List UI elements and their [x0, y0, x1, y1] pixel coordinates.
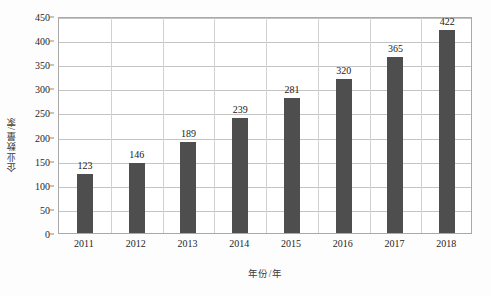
y-axis-tick-label: 100: [35, 180, 50, 191]
y-axis-tick-label: 450: [35, 12, 50, 23]
y-axis-tick-mark: [50, 161, 54, 162]
y-axis-tick-label: 150: [35, 156, 50, 167]
y-axis-tick-mark: [50, 137, 54, 138]
bar-value-label: 422: [440, 17, 455, 27]
x-axis-title: 年份/年: [58, 266, 472, 280]
bar-value-label: 189: [181, 129, 196, 139]
bar-group: 146: [111, 18, 163, 233]
y-axis-tick-mark: [50, 65, 54, 66]
bar-group: 365: [370, 18, 422, 233]
bar-value-label: 123: [77, 161, 92, 171]
bar-value-label: 281: [284, 85, 299, 95]
bar-group: 123: [59, 18, 111, 233]
y-axis-tick-label: 250: [35, 108, 50, 119]
bar: [232, 118, 248, 233]
y-axis-tick-label: 200: [35, 132, 50, 143]
bar: [336, 79, 352, 233]
y-axis-tick-mark: [50, 185, 54, 186]
bar-chart: 企业数量/家 050100150200250300350400450 12314…: [0, 0, 491, 296]
y-axis-tick-label: 300: [35, 84, 50, 95]
bar-value-label: 146: [129, 150, 144, 160]
y-axis-tick-mark: [50, 41, 54, 42]
x-axis-tick-label: 2015: [281, 238, 301, 249]
y-axis-tick-label: 50: [40, 204, 50, 215]
x-axis-tick-labels: 20112012201320142015201620172018: [58, 238, 472, 254]
bar: [284, 98, 300, 234]
bar-group: 239: [214, 18, 266, 233]
bar-group: 189: [163, 18, 215, 233]
x-axis-tick-label: 2016: [333, 238, 353, 249]
bar-value-label: 239: [233, 105, 248, 115]
y-axis-tick-label: 350: [35, 60, 50, 71]
y-axis-tick-label: 400: [35, 36, 50, 47]
bar: [129, 163, 145, 233]
bar-group: 281: [266, 18, 318, 233]
x-axis-tick-label: 2014: [229, 238, 249, 249]
bar-value-label: 365: [388, 44, 403, 54]
x-axis-tick-label: 2012: [126, 238, 146, 249]
x-axis-tick-label: 2017: [384, 238, 404, 249]
bar: [180, 142, 196, 233]
y-axis-tick-mark: [50, 17, 54, 18]
plot-area: 123146189239281320365422: [58, 17, 472, 234]
y-axis-tick-mark: [50, 89, 54, 90]
bar-group: 320: [318, 18, 370, 233]
y-axis-tick-mark: [50, 209, 54, 210]
bars-layer: 123146189239281320365422: [59, 18, 471, 233]
bar: [387, 57, 403, 233]
bar: [439, 30, 455, 233]
bar-group: 422: [421, 18, 473, 233]
y-axis-title: 企业数量/家: [2, 96, 22, 192]
y-axis-tick-mark: [50, 234, 54, 235]
y-axis-tick-mark: [50, 113, 54, 114]
x-axis-tick-label: 2013: [177, 238, 197, 249]
x-axis-tick-label: 2018: [436, 238, 456, 249]
bar-value-label: 320: [336, 66, 351, 76]
bar: [77, 174, 93, 233]
y-axis-tick-labels: 050100150200250300350400450: [20, 17, 54, 234]
x-axis-tick-label: 2011: [74, 238, 94, 249]
